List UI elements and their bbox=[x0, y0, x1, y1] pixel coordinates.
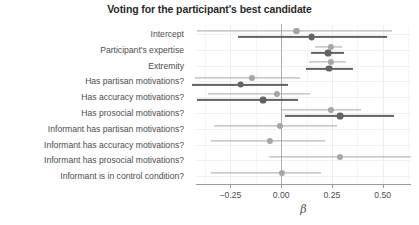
x-axis-tick-label: 0.00 bbox=[273, 190, 290, 200]
estimate-point bbox=[249, 75, 255, 81]
y-axis-tick-label: Has accuracy motivations? bbox=[81, 93, 184, 102]
y-axis-tick-label: Informant is in control condition? bbox=[60, 172, 184, 181]
estimate-point bbox=[308, 34, 315, 41]
confidence-interval-bar bbox=[197, 99, 298, 101]
x-axis-title: β bbox=[196, 203, 411, 216]
y-axis-tick-label: Participant's expertise bbox=[100, 45, 184, 54]
estimate-point bbox=[337, 154, 343, 160]
y-axis-category-labels: InterceptParticipant's expertiseExtremit… bbox=[0, 26, 190, 184]
chart-title: Voting for the participant's best candid… bbox=[0, 3, 419, 15]
y-axis-tick-label: Has prosocial motivations? bbox=[81, 109, 184, 118]
estimate-point bbox=[274, 91, 280, 97]
estimate-point bbox=[328, 107, 334, 113]
estimate-point bbox=[237, 81, 244, 88]
zero-reference-line bbox=[281, 24, 282, 188]
y-axis-tick-label: Intercept bbox=[151, 30, 184, 39]
estimate-point bbox=[279, 170, 285, 176]
x-axis-tick-label: 0.50 bbox=[374, 190, 391, 200]
estimate-point bbox=[337, 113, 344, 120]
y-axis-tick-label: Informant has partisan motivations? bbox=[48, 124, 184, 133]
gridline-horizontal bbox=[196, 160, 411, 161]
confidence-interval-bar bbox=[214, 125, 337, 126]
estimate-point bbox=[324, 49, 331, 56]
gridline-horizontal bbox=[196, 113, 411, 114]
confidence-interval-bar bbox=[281, 109, 361, 110]
estimate-point bbox=[277, 122, 283, 128]
confidence-interval-bar bbox=[208, 93, 309, 94]
y-axis-tick-label: Informant has prosocial motivations? bbox=[44, 156, 184, 165]
confidence-interval-bar bbox=[211, 172, 321, 173]
estimate-point bbox=[325, 65, 332, 72]
x-axis-tick-mark bbox=[281, 184, 282, 188]
estimate-point bbox=[267, 138, 273, 144]
x-axis-tick-label: −0.25 bbox=[220, 190, 242, 200]
x-axis-line bbox=[196, 184, 411, 185]
x-axis-tick-mark bbox=[230, 184, 231, 188]
gridline-horizontal bbox=[196, 66, 411, 67]
estimate-point bbox=[293, 28, 299, 34]
gridline-horizontal bbox=[196, 81, 411, 82]
estimate-point bbox=[260, 97, 267, 104]
x-axis-tick-label: 0.25 bbox=[324, 190, 341, 200]
y-axis-tick-label: Extremity bbox=[148, 61, 184, 70]
y-axis-tick-label: Has partisan motivations? bbox=[85, 77, 184, 86]
plot-area bbox=[196, 26, 411, 184]
gridline-horizontal bbox=[196, 97, 411, 98]
gridline-horizontal bbox=[196, 129, 411, 130]
y-axis-tick-label: Informant has accuracy motivations? bbox=[44, 140, 184, 149]
gridline-horizontal bbox=[196, 34, 411, 35]
forest-plot-figure: Voting for the participant's best candid… bbox=[0, 0, 419, 225]
gridline-horizontal bbox=[196, 50, 411, 51]
x-axis-tick-mark bbox=[332, 184, 333, 188]
x-axis-tick-mark bbox=[383, 184, 384, 188]
gridline-horizontal bbox=[196, 145, 411, 146]
gridline-horizontal bbox=[196, 176, 411, 177]
